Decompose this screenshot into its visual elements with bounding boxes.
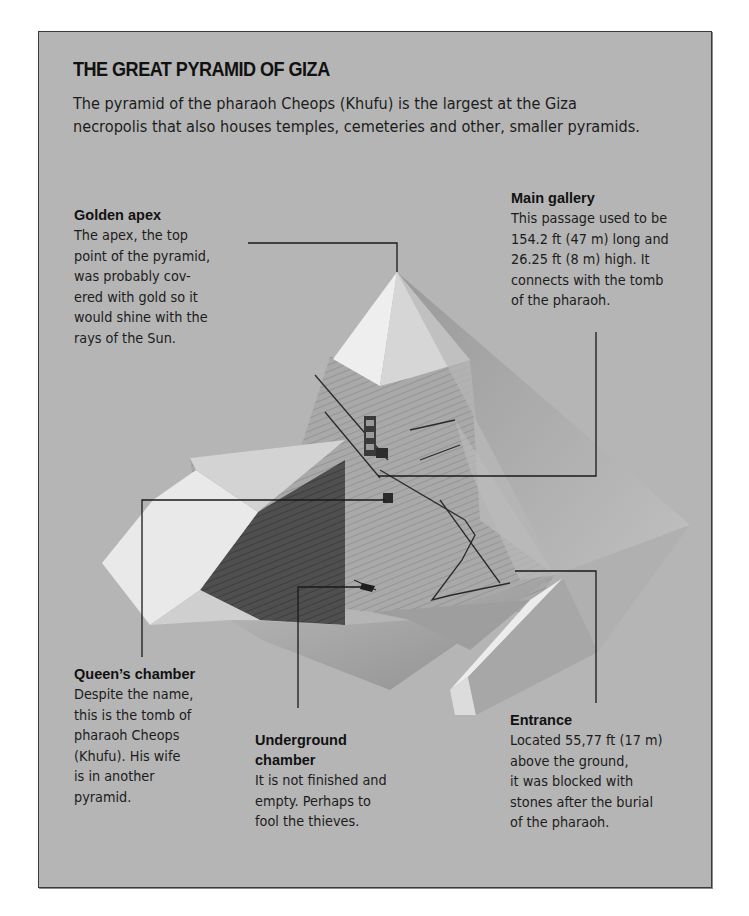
callout-title: Main gallery bbox=[511, 188, 711, 208]
callout-line: Despite the name, bbox=[74, 684, 230, 705]
callout-main-gallery: Main gallery This passage used to be 154… bbox=[511, 188, 711, 311]
callout-title: Underground bbox=[255, 730, 435, 750]
callout-line: would shine with the bbox=[74, 307, 249, 328]
callout-line: is in another bbox=[74, 766, 230, 787]
callout-line: of the pharaoh. bbox=[511, 290, 695, 311]
callout-line: ered with gold so it bbox=[74, 287, 249, 308]
callout-title: Golden apex bbox=[74, 205, 264, 225]
callout-line: (Khufu). His wife bbox=[74, 746, 230, 767]
callout-line: empty. Perhaps to bbox=[255, 791, 421, 812]
callout-line: connects with the tomb bbox=[511, 270, 695, 291]
callout-underground-chamber: Underground chamber It is not finished a… bbox=[255, 730, 435, 832]
callout-queens-chamber: Queen’s chamber Despite the name, this i… bbox=[74, 664, 244, 807]
queens-chamber-block bbox=[383, 493, 393, 503]
callout-line: above the ground, bbox=[510, 751, 689, 772]
callout-line: Located 55,77 ft (17 m) bbox=[510, 730, 689, 751]
callout-title: chamber bbox=[255, 750, 435, 770]
callout-line: fool the thieves. bbox=[255, 811, 421, 832]
callout-line: point of the pyramid, bbox=[74, 246, 249, 267]
callout-line: 154.2 ft (47 m) long and bbox=[511, 229, 695, 250]
callout-line: This passage used to be bbox=[511, 208, 695, 229]
callout-title: Entrance bbox=[510, 710, 705, 730]
callout-line: 26.25 ft (8 m) high. It bbox=[511, 249, 695, 270]
callout-line: pharaoh Cheops bbox=[74, 725, 230, 746]
callout-title: Queen’s chamber bbox=[74, 664, 244, 684]
callout-line: rays of the Sun. bbox=[74, 328, 249, 349]
callout-line: of the pharaoh. bbox=[510, 812, 689, 833]
leader-line-golden-apex bbox=[248, 243, 397, 272]
callout-line: It is not finished and bbox=[255, 770, 421, 791]
callout-line: The apex, the top bbox=[74, 225, 249, 246]
callout-line: stones after the burial bbox=[510, 792, 689, 813]
callout-entrance: Entrance Located 55,77 ft (17 m) above t… bbox=[510, 710, 705, 833]
callout-line: pyramid. bbox=[74, 787, 230, 808]
callout-line: it was blocked with bbox=[510, 771, 689, 792]
callout-golden-apex: Golden apex The apex, the top point of t… bbox=[74, 205, 264, 348]
callout-line: this is the tomb of bbox=[74, 705, 230, 726]
callout-line: was probably cov- bbox=[74, 266, 249, 287]
